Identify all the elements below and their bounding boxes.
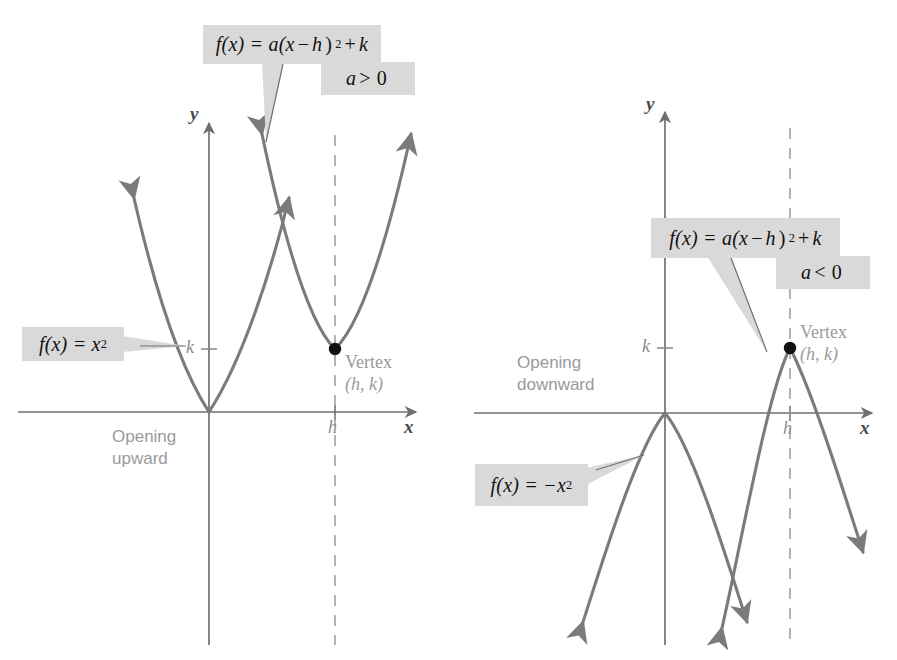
right-vertex-form-callout: f(x) = a(x − h)2 + k <box>651 218 840 258</box>
right-vertex-dot <box>784 342 796 354</box>
left-base-function-exponent: 2 <box>101 337 107 352</box>
right-condition-callout: a < 0 <box>776 256 870 289</box>
left-vertex-dot <box>329 343 341 355</box>
right-x-axis-label: x <box>860 418 870 438</box>
left-condition-value: 0 <box>374 67 390 90</box>
right-condition-value: 0 <box>829 261 845 284</box>
right-opening-note-line2: downward <box>517 374 595 396</box>
right-vertex-form-prefix: f(x) = a(x <box>669 227 748 250</box>
left-curve-base <box>134 198 289 412</box>
figure-graphics <box>0 0 897 660</box>
left-y-axis-label: y <box>190 104 198 124</box>
right-condition-relation: < <box>811 261 828 284</box>
right-vertex-label: Vertex <box>800 322 847 344</box>
left-vertex-coords: (h, k) <box>345 374 392 396</box>
right-vertex-annotation: Vertex (h, k) <box>800 322 847 365</box>
left-base-function-callout: f(x) = x2 <box>22 327 124 361</box>
left-condition-relation: > <box>356 67 373 90</box>
left-vertex-form-minus: − <box>295 33 312 56</box>
right-y-axis-label: y <box>646 94 654 114</box>
parabola-figure: f(x) = a(x − h)2 + k a > 0 f(x) = x2 y x… <box>0 0 897 660</box>
right-base-function-prefix: f(x) = −x <box>491 474 566 497</box>
left-vertex-form-plus: + <box>342 33 359 56</box>
right-opening-note: Opening downward <box>517 352 595 396</box>
left-vertex-annotation: Vertex (h, k) <box>345 352 392 395</box>
left-base-function-prefix: f(x) = x <box>39 333 101 356</box>
left-k-tick-label: k <box>186 338 194 357</box>
left-vertex-form-callout: f(x) = a(x − h)2 + k <box>203 25 381 64</box>
right-k-tick-label: k <box>642 337 650 356</box>
right-formula-pointer <box>707 256 767 352</box>
right-h-tick-label: h <box>783 419 792 438</box>
right-vertex-form-close: ) <box>776 227 789 250</box>
right-vertex-form-k: k <box>813 227 822 250</box>
right-vertex-form-h: h <box>766 227 776 250</box>
left-vertex-form-close: ) <box>322 33 335 56</box>
left-curve-shifted <box>262 134 411 349</box>
right-base-function-callout: f(x) = −x2 <box>475 464 588 506</box>
left-vertex-form-k: k <box>359 33 368 56</box>
left-opening-note-line1: Opening <box>112 426 176 448</box>
right-opening-note-line1: Opening <box>517 352 595 374</box>
right-vertex-coords: (h, k) <box>800 344 847 366</box>
right-formula-pointer-stroke <box>731 258 767 352</box>
right-base-function-exponent: 2 <box>566 478 572 493</box>
right-condition-coefficient: a <box>801 261 811 284</box>
left-vertex-label: Vertex <box>345 352 392 374</box>
right-vertex-form-minus: − <box>748 227 765 250</box>
left-opening-note: Opening upward <box>112 426 176 470</box>
left-vertex-form-prefix: f(x) = a(x <box>216 33 295 56</box>
left-h-tick-label: h <box>328 418 337 437</box>
left-vertex-form-h: h <box>312 33 322 56</box>
left-formula-pointer <box>262 62 283 142</box>
left-condition-callout: a > 0 <box>321 62 415 95</box>
left-x-axis-label: x <box>404 417 414 437</box>
right-curve-shifted <box>722 348 863 628</box>
left-opening-note-line2: upward <box>112 448 176 470</box>
right-vertex-form-plus: + <box>795 227 812 250</box>
left-condition-coefficient: a <box>346 67 356 90</box>
